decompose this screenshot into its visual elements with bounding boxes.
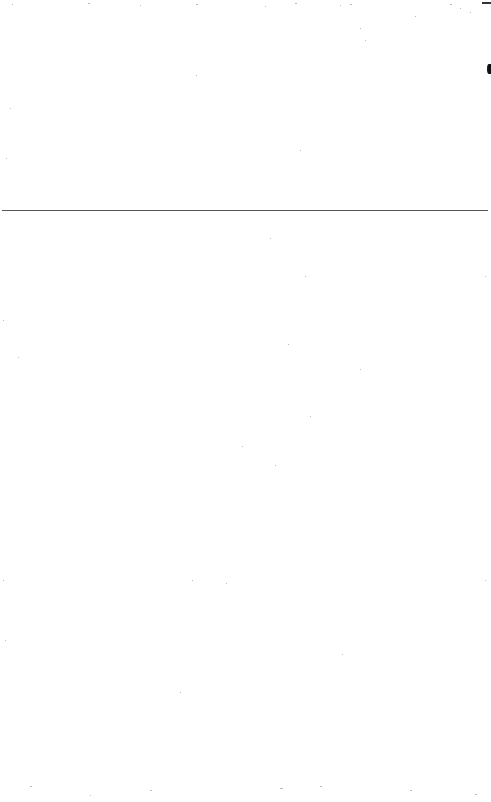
scan-noise (0, 0, 491, 802)
horizontal-rule (2, 210, 488, 211)
document-page (0, 0, 491, 802)
scan-corner-mark (482, 2, 491, 4)
scan-edge-mark (487, 64, 491, 74)
